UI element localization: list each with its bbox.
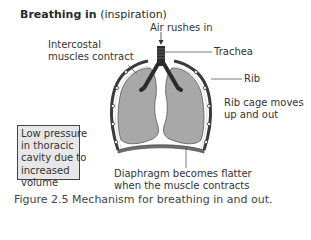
label-diaphragm-1: Diaphragm becomes flatter — [114, 168, 252, 180]
label-air-rushes-in: Air rushes in — [150, 22, 213, 34]
label-rib: Rib — [244, 73, 260, 85]
figure-caption-text: Mechanism for breathing in and out. — [69, 193, 273, 206]
box-line: Low pressure — [21, 128, 76, 140]
diaphragm — [118, 145, 204, 153]
figure-caption: Figure 2.5 Mechanism for breathing in an… — [14, 193, 272, 206]
label-diaphragm-2: when the muscle contracts — [114, 180, 249, 192]
box-line: increased — [21, 165, 76, 177]
pressure-note-box: Low pressure in thoracic cavity due to i… — [17, 125, 80, 180]
label-intercostal-1: Intercostal — [48, 39, 101, 51]
box-line: in thoracic — [21, 140, 76, 152]
label-rib-cage-1: Rib cage moves — [224, 97, 304, 109]
label-intercostal-2: muscles contract — [48, 51, 134, 63]
box-line: volume — [21, 177, 76, 189]
label-trachea: Trachea — [214, 46, 253, 58]
figure-number: Figure 2.5 — [14, 193, 69, 206]
box-line: cavity due to — [21, 152, 76, 164]
label-rib-cage-2: up and out — [224, 109, 278, 121]
